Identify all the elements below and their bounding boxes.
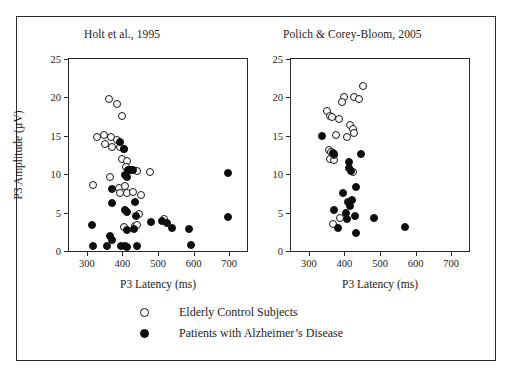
- y-tick: [64, 136, 69, 137]
- figure-root: Holt et al., 1995 Polich & Corey-Bloom, …: [0, 0, 510, 377]
- data-point-patient: [187, 241, 195, 249]
- data-point-patient: [133, 242, 141, 250]
- data-point-patient: [108, 185, 116, 193]
- x-axis-label-right: P3 Latency (ms): [342, 278, 418, 290]
- legend: Elderly Control Subjects Patients with A…: [140, 302, 343, 344]
- data-point-patient: [352, 183, 360, 191]
- plot-area-left: 0510152025300400500600700: [68, 58, 248, 252]
- panel-title-left: Holt et al., 1995: [84, 28, 160, 40]
- y-tick-label: 0: [56, 246, 61, 257]
- y-axis-label: P3 Amplitude (µV): [12, 110, 24, 199]
- data-point-control: [335, 115, 343, 123]
- y-tick: [64, 59, 69, 60]
- data-point-control: [118, 112, 126, 120]
- data-point-patient: [131, 198, 139, 206]
- data-point-patient: [330, 206, 338, 214]
- y-tick: [286, 59, 291, 60]
- x-tick: [451, 251, 452, 256]
- x-tick-label: 600: [408, 258, 424, 269]
- data-point-patient: [88, 221, 96, 229]
- y-tick: [64, 97, 69, 98]
- data-point-control: [113, 100, 121, 108]
- data-point-patient: [352, 229, 360, 237]
- x-axis-label-left: P3 Latency (ms): [120, 278, 196, 290]
- data-point-patient: [123, 173, 131, 181]
- data-point-patient: [334, 224, 342, 232]
- data-point-patient: [343, 215, 351, 223]
- scatter-panel-holt: 0510152025300400500600700: [68, 58, 248, 252]
- x-tick: [158, 251, 159, 256]
- data-point-patient: [318, 132, 326, 140]
- data-point-patient: [103, 242, 111, 250]
- data-point-control: [129, 188, 137, 196]
- data-point-control: [338, 98, 346, 106]
- y-tick: [286, 174, 291, 175]
- y-tick: [286, 251, 291, 252]
- data-point-patient: [357, 150, 365, 158]
- data-point-patient: [401, 223, 409, 231]
- x-tick: [194, 251, 195, 256]
- data-point-patient: [351, 212, 359, 220]
- x-tick: [87, 251, 88, 256]
- data-point-patient: [339, 189, 347, 197]
- x-tick: [380, 251, 381, 256]
- data-point-control: [332, 131, 340, 139]
- legend-item-control: Elderly Control Subjects: [140, 302, 343, 323]
- x-tick-label: 600: [186, 258, 202, 269]
- data-point-patient: [130, 225, 138, 233]
- y-tick: [286, 136, 291, 137]
- y-tick-label: 5: [56, 207, 61, 218]
- y-tick: [64, 251, 69, 252]
- legend-item-patient: Patients with Alzheimer’s Disease: [140, 323, 343, 344]
- data-point-control: [350, 129, 358, 137]
- legend-label-patient: Patients with Alzheimer’s Disease: [179, 326, 343, 341]
- y-tick-label: 0: [278, 246, 283, 257]
- data-point-patient: [132, 212, 140, 220]
- legend-label-control: Elderly Control Subjects: [179, 305, 298, 320]
- data-point-control: [355, 95, 363, 103]
- data-point-patient: [89, 242, 97, 250]
- y-tick-label: 20: [273, 92, 284, 103]
- data-point-patient: [168, 224, 176, 232]
- x-tick-label: 400: [337, 258, 353, 269]
- data-point-patient: [123, 243, 131, 251]
- x-tick: [344, 251, 345, 256]
- y-tick: [64, 213, 69, 214]
- x-tick-label: 700: [221, 258, 237, 269]
- data-point-patient: [123, 208, 131, 216]
- y-tick-label: 15: [51, 130, 62, 141]
- y-tick-label: 10: [273, 169, 284, 180]
- x-tick-label: 300: [301, 258, 317, 269]
- data-point-patient: [108, 199, 116, 207]
- data-point-control: [343, 133, 351, 141]
- y-tick-label: 15: [273, 130, 284, 141]
- y-tick: [286, 213, 291, 214]
- x-tick-label: 700: [443, 258, 459, 269]
- x-tick-label: 400: [115, 258, 131, 269]
- data-point-control: [89, 181, 97, 189]
- y-tick-label: 5: [278, 207, 283, 218]
- x-tick-label: 500: [150, 258, 166, 269]
- data-point-patient: [224, 213, 232, 221]
- y-tick: [286, 97, 291, 98]
- data-point-patient: [347, 167, 355, 175]
- panel-title-right: Polich & Corey-Bloom, 2005: [283, 28, 422, 40]
- y-tick-label: 25: [51, 54, 62, 65]
- y-tick-label: 10: [51, 169, 62, 180]
- plot-area-right: 0510152025300400500600700: [290, 58, 470, 252]
- y-tick: [64, 174, 69, 175]
- filled-circle-icon: [140, 329, 149, 338]
- data-point-control: [359, 82, 367, 90]
- data-point-patient: [120, 145, 128, 153]
- scatter-panel-polich: 0510152025300400500600700: [290, 58, 470, 252]
- data-point-patient: [224, 169, 232, 177]
- data-point-patient: [147, 218, 155, 226]
- data-point-control: [105, 95, 113, 103]
- data-point-control: [146, 168, 154, 176]
- y-tick-label: 20: [51, 92, 62, 103]
- y-tick-label: 25: [273, 54, 284, 65]
- x-tick: [122, 251, 123, 256]
- x-tick-label: 500: [372, 258, 388, 269]
- data-point-control: [106, 173, 114, 181]
- data-point-control: [116, 189, 124, 197]
